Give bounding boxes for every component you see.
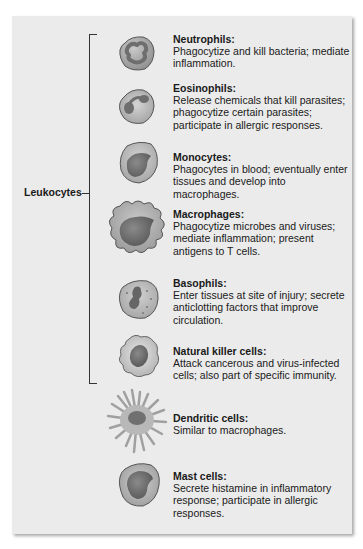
entry-macrophages: Macrophages: Phagocytize microbes and vi…	[173, 208, 351, 257]
entry-dendritic-cells: Dendritic cells: Similar to macrophages.	[173, 412, 351, 436]
entry-description: Secrete histamine in inflammatory respon…	[173, 482, 351, 519]
entry-title: Macrophages:	[173, 208, 351, 220]
leukocytes-bracket	[89, 34, 97, 384]
entry-neutrophils: Neutrophils: Phagocytize and kill bacter…	[173, 33, 351, 70]
entry-description: Phagocytize and kill bacteria; mediate i…	[173, 45, 351, 69]
entry-description: Phagocytize microbes and viruses; mediat…	[173, 220, 351, 257]
entry-title: Basophils:	[173, 277, 351, 289]
entry-description: Release chemicals that kill parasites; p…	[173, 94, 351, 131]
entry-eosinophils: Eosinophils: Release chemicals that kill…	[173, 82, 351, 131]
entry-natural-killer-cells: Natural killer cells: Attack cancerous a…	[173, 345, 351, 382]
eosinophil-illustration	[117, 86, 157, 126]
entry-monocytes: Monocytes: Phagocytes in blood; eventual…	[173, 151, 351, 200]
entry-mast-cells: Mast cells: Secrete histamine in inflamm…	[173, 470, 351, 519]
entry-title: Eosinophils:	[173, 82, 351, 94]
entry-description: Similar to macrophages.	[173, 424, 351, 436]
entry-title: Neutrophils:	[173, 33, 351, 45]
monocyte-illustration	[117, 140, 161, 186]
entry-description: Enter tissues at site of injury; secrete…	[173, 289, 351, 326]
basophil-illustration	[117, 277, 161, 321]
mast-cell-illustration	[117, 461, 163, 509]
dendritic-cell-illustration	[106, 388, 168, 454]
macrophage-illustration	[106, 196, 168, 258]
neutrophil-illustration	[117, 33, 157, 73]
entry-title: Monocytes:	[173, 151, 351, 163]
entry-basophils: Basophils: Enter tissues at site of inju…	[173, 277, 351, 326]
leukocytes-label: Leukocytes	[24, 186, 82, 198]
natural-killer-cell-illustration	[117, 333, 161, 379]
entry-title: Mast cells:	[173, 470, 351, 482]
entry-description: Phagocytes in blood; eventually enter ti…	[173, 163, 351, 200]
entry-description: Attack cancerous and virus-infected cell…	[173, 357, 351, 381]
bracket-tick	[82, 193, 90, 194]
entry-title: Dendritic cells:	[173, 412, 351, 424]
entry-title: Natural killer cells:	[173, 345, 351, 357]
